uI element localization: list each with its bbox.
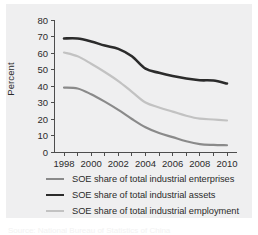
series-line-0 [64, 88, 227, 146]
y-tick-label: 70 [26, 31, 48, 42]
data-series-lines [64, 38, 227, 145]
figure-caption-fragment: Source: National Bureau of Statistics of… [8, 226, 170, 235]
x-tick-label: 2010 [210, 158, 244, 169]
y-tick-label: 10 [26, 130, 48, 141]
legend-label: SOE share of total industrial enterprise… [72, 174, 234, 184]
legend-label: SOE share of total industrial employment [72, 206, 239, 216]
y-tick-label: 50 [26, 64, 48, 75]
legend-item[interactable]: SOE share of total industrial assets [46, 188, 246, 202]
y-tick-label: 80 [26, 15, 48, 26]
chart-legend: SOE share of total industrial enterprise… [46, 172, 246, 220]
figure-container: Percent 01020304050607080 19982000200220… [0, 0, 258, 235]
legend-label: SOE share of total industrial assets [72, 190, 215, 200]
legend-swatch-line-icon [46, 194, 64, 196]
legend-swatch-line-icon [46, 178, 64, 180]
y-tick-label: 0 [26, 147, 48, 158]
legend-item[interactable]: SOE share of total industrial employment [46, 204, 246, 218]
y-tick-label: 30 [26, 97, 48, 108]
y-tick-label: 40 [26, 81, 48, 92]
series-line-2 [64, 53, 227, 121]
legend-swatch-line-icon [46, 210, 64, 212]
y-tick-label: 60 [26, 48, 48, 59]
legend-item[interactable]: SOE share of total industrial enterprise… [46, 172, 246, 186]
y-tick-label: 20 [26, 114, 48, 125]
